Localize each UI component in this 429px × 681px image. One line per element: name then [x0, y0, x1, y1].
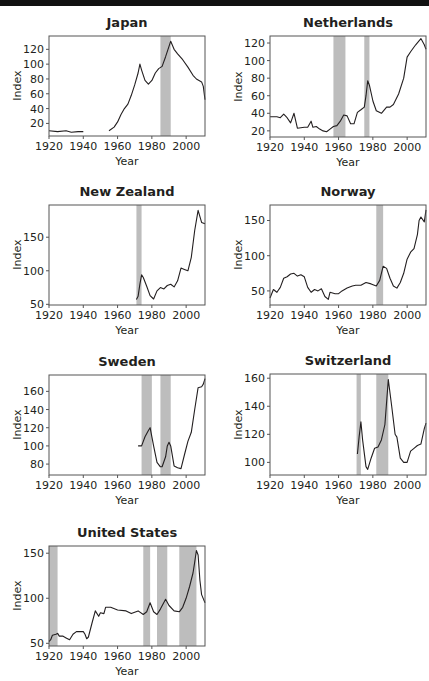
y-tick-label: 50 [30, 637, 44, 650]
x-tick-label: 1940 [69, 650, 97, 663]
x-tick-label: 1980 [138, 650, 166, 663]
shaded-period [49, 546, 58, 646]
shaded-period [157, 546, 167, 646]
y-tick-label: 100 [23, 592, 44, 605]
shaded-period [179, 546, 196, 646]
y-tick-label: 150 [23, 547, 44, 560]
x-tick-label: 1920 [35, 650, 63, 663]
x-tick-label: 2000 [172, 650, 200, 663]
x-tick-label: 1960 [104, 650, 132, 663]
shaded-period [143, 546, 150, 646]
line-plot: 1920194019601980200050100150 [0, 0, 429, 681]
